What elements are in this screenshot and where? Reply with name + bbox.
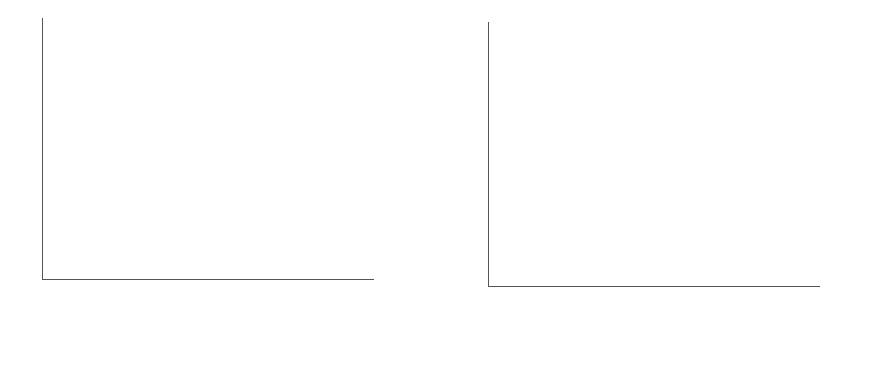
x-axis-b — [488, 286, 820, 287]
panel-b — [440, 0, 896, 352]
y-axis-a — [42, 18, 43, 280]
colorbar-a — [387, 20, 411, 282]
y-axis-b — [488, 22, 489, 287]
figure-caption — [0, 352, 896, 368]
heatmap-b — [494, 27, 814, 282]
colorbar-b — [834, 26, 858, 288]
heatmap-a — [49, 24, 369, 277]
x-axis-a — [42, 279, 374, 280]
panel-a — [0, 0, 448, 352]
